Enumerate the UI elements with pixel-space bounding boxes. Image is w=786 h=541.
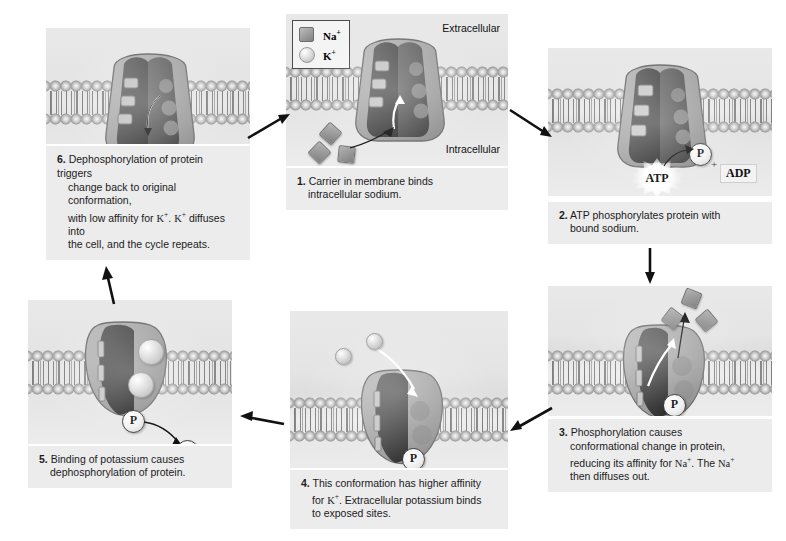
step-6-line4: the cell, and the cycle repeats.: [57, 238, 240, 252]
step-panel-3: P 3. Phosphorylation causes conformation…: [548, 286, 772, 492]
step-2-illustration: P + ADP ATP: [548, 48, 772, 196]
sodium-entry-arrow: [348, 122, 404, 154]
sodium-ion: [318, 121, 342, 145]
step-6-line2: change back to original conformation,: [57, 181, 240, 208]
atp-label: ATP: [645, 171, 668, 186]
step-4-line1: This conformation has higher affinity: [313, 477, 481, 489]
arrow-6-to-1: [246, 112, 294, 142]
potassium-symbol: K: [174, 212, 182, 223]
step-3-line3b: . The: [691, 457, 718, 469]
step-4-line3: to exposed sites.: [301, 507, 498, 521]
step-1-number: 1.: [297, 175, 306, 187]
step-1-line1: Carrier in membrane binds: [309, 175, 433, 187]
potassium-ion: [335, 348, 352, 365]
legend-row-sodium: Na+: [299, 26, 341, 43]
arrow-5-to-6: [98, 262, 124, 306]
square-icon: [299, 27, 314, 42]
legend-row-potassium: K+: [299, 46, 341, 63]
step-6-caption: 6. Dephosphorylation of protein triggers…: [46, 144, 250, 260]
step-4-number: 4.: [301, 477, 310, 489]
step-5-line2: dephosphorylation of protein.: [39, 466, 222, 480]
step-3-line1: Phosphorylation causes: [571, 426, 683, 438]
extracellular-label: Extracellular: [442, 22, 500, 34]
step-panel-6: 6. Dephosphorylation of protein triggers…: [46, 28, 250, 260]
legend-na-charge: +: [336, 28, 340, 37]
potassium-ion: [366, 333, 383, 350]
arrow-3-to-4: [508, 404, 554, 434]
step-4-caption: 4. This conformation has higher affinity…: [290, 468, 508, 529]
sodium-ion: [680, 287, 702, 309]
step-2-line1: ATP phosphorylates protein with: [570, 209, 720, 221]
potassium-ion-bound: [138, 339, 164, 365]
plus-sign: +: [711, 158, 717, 170]
step-2-number: 2.: [559, 209, 568, 221]
step-2-line2: bound sodium.: [559, 222, 762, 236]
step-panel-4: P 4. This conformation has higher affini…: [290, 311, 508, 529]
figure-canvas: 6. Dephosphorylation of protein triggers…: [0, 0, 786, 541]
potassium-symbol: K: [157, 212, 165, 223]
arrow-4-to-5: [238, 406, 286, 434]
step-5-number: 5.: [39, 453, 48, 465]
step-4-illustration: P: [290, 311, 508, 473]
step-3-line3a: reducing its affinity for: [570, 457, 675, 469]
step-1-caption: 1. Carrier in membrane binds intracellul…: [286, 166, 508, 210]
step-1-line2: intracellular sodium.: [297, 188, 498, 202]
step-4-line2a: for: [312, 494, 327, 506]
potassium-ion-bound: [128, 372, 154, 398]
step-5-caption: 5. Binding of potassium causes dephospho…: [28, 444, 232, 488]
ion-legend: Na+ K+: [292, 20, 350, 69]
step-panel-5: P P 5. Binding of potassium causes depho…: [28, 300, 232, 488]
step-3-line4: then diffuses out.: [559, 470, 762, 484]
step-3-number: 3.: [559, 426, 568, 438]
adp-label: ADP: [720, 164, 757, 183]
phosphorylation-arrow: [660, 144, 700, 170]
step-2-caption: 2. ATP phosphorylates protein with bound…: [548, 200, 772, 244]
step-panel-1: Na+ K+ Extracellular Intracellular 1. Ca…: [286, 14, 508, 210]
phosphate-group-bound: P: [663, 394, 686, 416]
intracellular-label: Intracellular: [446, 143, 500, 155]
step-3-illustration: P: [548, 286, 772, 416]
circle-icon: [299, 47, 315, 63]
potassium-symbol: K: [327, 495, 335, 506]
step-4-line2b: . Extracellular potassium binds: [339, 494, 481, 506]
legend-k-charge: +: [332, 48, 336, 57]
step-6-line1: Dephosphorylation of protein triggers: [57, 153, 203, 179]
step-1-illustration: Na+ K+ Extracellular Intracellular: [286, 14, 508, 166]
sodium-ion: [307, 140, 331, 164]
sodium-symbol: Na: [675, 458, 687, 469]
sodium-exit-arrow: [666, 308, 692, 360]
legend-k-label: K: [323, 49, 332, 61]
step-6-line3a: with low affinity for: [68, 211, 157, 223]
sodium-symbol: Na: [718, 458, 730, 469]
step-3-line2: conformational change in protein,: [559, 440, 762, 454]
step-6-number: 6.: [57, 153, 66, 165]
step-panel-2: P + ADP ATP 2. ATP phosphorylates protei…: [548, 48, 772, 244]
arrow-1-to-2: [508, 106, 556, 140]
step-3-caption: 3. Phosphorylation causes conformational…: [548, 417, 772, 492]
legend-na-label: Na: [323, 29, 336, 41]
step-5-line1: Binding of potassium causes: [51, 453, 185, 465]
step-5-illustration: P P: [28, 300, 232, 444]
arrow-2-to-3: [639, 246, 661, 286]
